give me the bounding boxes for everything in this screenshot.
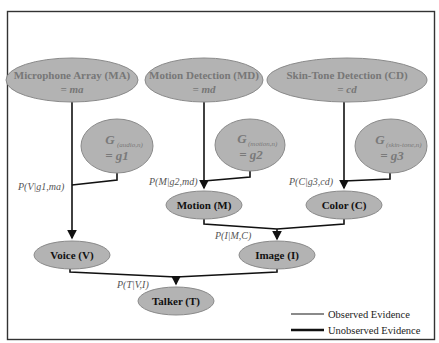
node-color: Color (C)	[306, 191, 382, 219]
svg-text:G: G	[105, 132, 115, 147]
node-image-label: Image (I)	[255, 249, 299, 262]
gate-skin-value: = g3	[380, 148, 404, 163]
prob-image: P(I|M,C)	[214, 230, 252, 242]
prob-talker: P(T|V,I)	[116, 279, 149, 291]
node-motion-label: Motion (M)	[177, 199, 232, 212]
node-motion-detection-value: = md	[192, 83, 216, 95]
node-motion-detection-label: Motion Detection (MD)	[149, 69, 259, 82]
legend-observed-label: Observed Evidence	[328, 309, 410, 320]
node-mic-array: Microphone Array (MA) = ma	[6, 58, 138, 102]
node-skin-tone-detection: Skin-Tone Detection (CD) = cd	[267, 58, 427, 102]
legend-unobserved-label: Unobserved Evidence	[328, 325, 421, 336]
node-motion: Motion (M)	[166, 191, 242, 219]
legend: Observed Evidence Unobserved Evidence	[291, 309, 421, 336]
node-color-label: Color (C)	[322, 199, 367, 212]
node-talker: Talker (T)	[138, 287, 214, 315]
node-mic-array-label: Microphone Array (MA)	[14, 69, 131, 82]
svg-text:G: G	[237, 131, 247, 146]
gate-motion-value: = g2	[239, 147, 263, 162]
edge-gate-skin-to-color	[344, 173, 390, 181]
node-gate-motion: G (motion,n) = g2	[215, 119, 285, 171]
node-talker-label: Talker (T)	[152, 295, 200, 308]
node-gate-audio: G (audio,n) = g1	[81, 119, 153, 173]
node-voice-label: Voice (V)	[50, 249, 94, 262]
prob-voice: P(V|g1,ma)	[17, 181, 65, 193]
edge-image-to-talker	[176, 269, 277, 277]
prob-motion: P(M|g2,md)	[148, 176, 198, 188]
node-skin-tone-value: = cd	[337, 83, 357, 95]
edge-voice-to-talker	[70, 269, 176, 277]
gate-audio-value: = g1	[105, 148, 129, 163]
node-voice: Voice (V)	[34, 241, 110, 269]
prob-color: P(C|g3,cd)	[288, 176, 334, 188]
node-motion-detection: Motion Detection (MD) = md	[145, 58, 263, 102]
node-mic-array-value: = ma	[60, 83, 84, 95]
edge-motion-to-image	[204, 219, 277, 229]
edge-color-to-image	[277, 219, 344, 229]
edge-gate-motion-to-motion	[204, 171, 250, 181]
bayesian-network-diagram: Microphone Array (MA) = ma Motion Detect…	[0, 0, 439, 343]
node-gate-skin: G (skin-tone,n) = g3	[355, 119, 427, 173]
node-skin-tone-label: Skin-Tone Detection (CD)	[286, 69, 408, 82]
edge-gate-audio-to-voice	[72, 173, 117, 185]
node-image: Image (I)	[239, 241, 315, 269]
svg-text:G: G	[375, 132, 385, 147]
